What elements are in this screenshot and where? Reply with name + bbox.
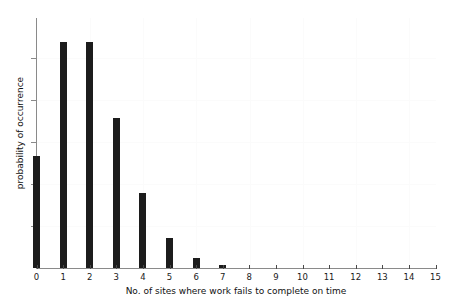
- bar-5: [166, 238, 173, 268]
- x-axis-tick: [276, 265, 277, 269]
- y-axis-label-wrapper: probability of occurrence: [0, 18, 22, 269]
- x-tick-label-14: 14: [397, 272, 421, 283]
- bar-4: [139, 193, 146, 268]
- x-tick-label-5: 5: [158, 272, 182, 283]
- gridline-vertical: [196, 18, 197, 268]
- y-axis-label: probability of occurrence: [15, 13, 25, 253]
- x-tick-label-15: 15: [424, 272, 448, 283]
- x-axis-tick: [329, 265, 330, 269]
- bar-1: [60, 42, 67, 268]
- x-tick-label-12: 12: [344, 272, 368, 283]
- x-axis-tick: [90, 265, 91, 269]
- x-axis-tick: [223, 265, 224, 269]
- x-tick-label-0: 0: [25, 272, 49, 283]
- gridline-horizontal: [37, 142, 436, 143]
- x-axis-tick: [356, 265, 357, 269]
- gridline-vertical: [356, 18, 357, 268]
- y-axis-tick: [31, 142, 37, 143]
- x-axis-tick: [170, 265, 171, 269]
- gridline-horizontal: [37, 100, 436, 101]
- gridline-horizontal: [37, 226, 436, 227]
- chart-figure: 0123456789101112131415 No. of sites wher…: [0, 0, 458, 302]
- bar-2: [86, 42, 93, 268]
- x-axis-tick: [436, 265, 437, 269]
- x-axis-label: No. of sites where work fails to complet…: [36, 285, 436, 297]
- gridline-horizontal: [37, 184, 436, 185]
- plot-area: 0123456789101112131415: [0, 0, 458, 302]
- bar-0: [33, 156, 40, 269]
- gridline-horizontal: [37, 58, 436, 59]
- x-axis-tick: [409, 265, 410, 269]
- gridline-vertical: [409, 18, 410, 268]
- x-axis-tick: [249, 265, 250, 269]
- x-axis-line: [36, 268, 436, 269]
- x-tick-label-9: 9: [264, 272, 288, 283]
- y-axis-tick: [31, 58, 37, 59]
- x-tick-label-7: 7: [211, 272, 235, 283]
- bar-3: [113, 118, 120, 268]
- x-axis-tick: [63, 265, 64, 269]
- y-axis-tick: [31, 100, 37, 101]
- x-axis-tick: [303, 265, 304, 269]
- x-tick-label-4: 4: [131, 272, 155, 283]
- x-axis-tick: [382, 265, 383, 269]
- x-tick-label-1: 1: [51, 272, 75, 283]
- x-axis-tick: [116, 265, 117, 269]
- gridline-vertical: [250, 18, 251, 268]
- x-axis-tick: [196, 265, 197, 269]
- x-tick-label-6: 6: [184, 272, 208, 283]
- x-tick-label-10: 10: [291, 272, 315, 283]
- x-axis-tick: [143, 265, 144, 269]
- x-tick-label-8: 8: [237, 272, 261, 283]
- x-tick-label-3: 3: [104, 272, 128, 283]
- gridline-vertical: [303, 18, 304, 268]
- x-tick-label-2: 2: [78, 272, 102, 283]
- x-axis-tick: [37, 265, 38, 269]
- x-tick-label-11: 11: [317, 272, 341, 283]
- x-tick-label-13: 13: [370, 272, 394, 283]
